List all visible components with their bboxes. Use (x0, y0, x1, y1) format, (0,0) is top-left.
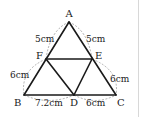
vertex-label-E: E (95, 50, 102, 61)
measure-AF: 5cm (35, 34, 55, 44)
vertex-label-F: F (36, 50, 43, 61)
measure-FB: 6cm (10, 70, 30, 80)
segment-FD (46, 59, 74, 95)
triangle-diagram: A F E B D C 5cm 5cm 6cm 6cm 7.2cm 6cm (0, 0, 144, 117)
measure-AE: 5cm (86, 34, 106, 44)
measure-BD: 7.2cm (35, 98, 63, 108)
vertex-label-B: B (14, 97, 21, 108)
vertex-label-D: D (70, 97, 78, 108)
segment-ED (74, 59, 92, 95)
vertex-label-A: A (65, 8, 74, 19)
vertex-label-C: C (117, 97, 125, 108)
measure-DC: 6cm (86, 98, 106, 108)
measure-EC: 6cm (110, 74, 130, 84)
